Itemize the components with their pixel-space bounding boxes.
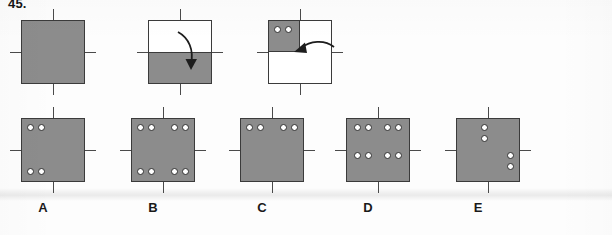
punched-hole — [481, 135, 488, 142]
option-label-a: A — [33, 200, 53, 215]
punched-hole — [481, 124, 488, 131]
crease-tick-right — [520, 150, 531, 151]
option-e[interactable] — [0, 0, 612, 235]
option-label-d: D — [358, 200, 378, 215]
crease-tick-left — [445, 150, 456, 151]
question-number: 45. — [8, 0, 27, 11]
punched-hole — [507, 152, 514, 159]
worksheet-page: 45. ABCDE — [0, 0, 612, 235]
crease-tick-bottom — [488, 182, 489, 193]
punched-hole — [507, 163, 514, 170]
option-label-b: B — [143, 200, 163, 215]
option-label-e: E — [468, 200, 488, 215]
option-label-c: C — [252, 200, 272, 215]
crease-tick-top — [488, 107, 489, 118]
paper-square — [456, 118, 520, 182]
